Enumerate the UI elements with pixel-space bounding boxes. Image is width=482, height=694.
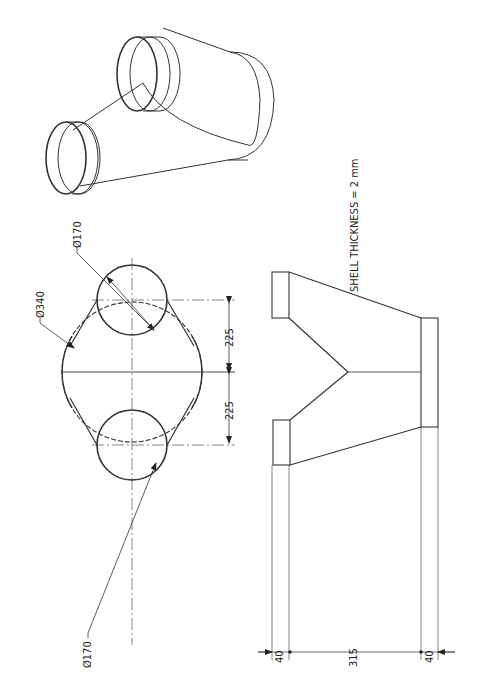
side-dim-315-label: 315 [348, 648, 359, 667]
upper-branch-opening [117, 37, 157, 111]
lower-branch-collar [273, 420, 290, 465]
lower-branch-inner-ellipse [58, 122, 98, 194]
side-view [258, 272, 455, 660]
upper-branch-inner-ellipse [130, 37, 170, 111]
top-view [40, 247, 235, 645]
base-collar [421, 318, 438, 427]
drawing-svg [0, 0, 482, 694]
isometric-view [46, 28, 274, 194]
technical-drawing-sheet: SHELL THICKNESS = 2 mm Ø170 Ø340 Ø170 22… [0, 0, 482, 694]
large-diameter-340-label: Ø340 [35, 291, 46, 318]
offset-225-lower-label: 225 [224, 401, 235, 420]
side-dim-40-right-label: 40 [424, 650, 435, 663]
side-dim-40-left-label: 40 [274, 650, 285, 663]
lower-diameter-170-label: Ø170 [82, 641, 93, 668]
shell-thickness-note: SHELL THICKNESS = 2 mm [349, 159, 360, 292]
lower-branch-opening [46, 122, 86, 194]
upper-branch-collar [272, 272, 289, 318]
offset-225-upper-label: 225 [224, 328, 235, 347]
upper-diameter-170-label: Ø170 [72, 221, 83, 248]
